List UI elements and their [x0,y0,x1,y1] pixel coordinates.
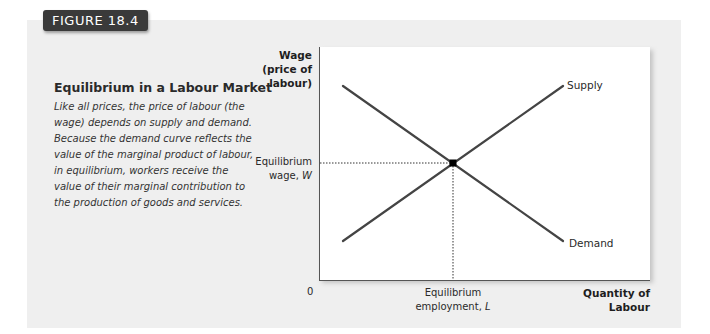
tick-text: wage, [269,170,302,181]
tick-text: employment, [415,301,485,312]
tick-label-line: employment, L [393,300,513,314]
tick-variable: W [302,170,312,181]
equilibrium-point [450,160,457,167]
x-axis-label-line: Quantity of [560,286,650,300]
x-axis-label-line: Labour [560,300,650,314]
equilibrium-employment-tick: Equilibrium employment, L [393,286,513,314]
x-axis-label: Quantity of Labour [560,286,650,314]
tick-label-line: wage, W [232,169,312,183]
tick-variable: L [485,301,491,312]
origin-label: 0 [307,286,313,297]
equilibrium-wage-tick: Equilibrium wage, W [232,155,312,183]
chart-curves [0,0,710,334]
tick-label-line: Equilibrium [393,286,513,300]
demand-label: Demand [569,237,614,249]
supply-label: Supply [567,79,603,91]
tick-label-line: Equilibrium [232,155,312,169]
